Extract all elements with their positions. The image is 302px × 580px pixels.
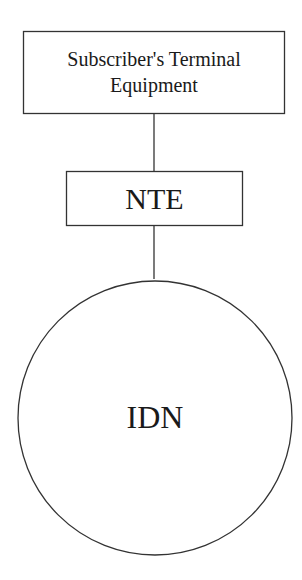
nte-label: NTE [66, 171, 243, 226]
terminal-label-line2: Equipment [110, 72, 198, 98]
terminal-label: Subscriber's Terminal Equipment [23, 31, 285, 113]
terminal-label-line1: Subscriber's Terminal [67, 46, 240, 72]
idn-label: IDN [18, 280, 292, 554]
